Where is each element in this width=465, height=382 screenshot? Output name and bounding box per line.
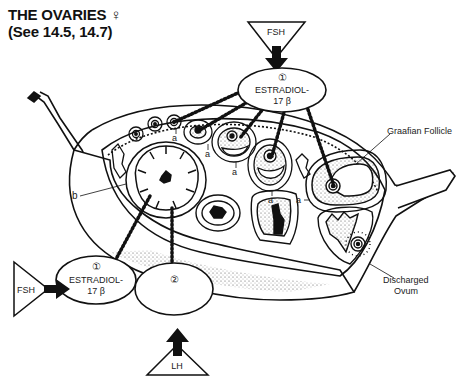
ovary-diagram: Graafian Follicle Discharged Ovum b a a …: [0, 0, 465, 382]
atretic-follicles: [196, 191, 298, 244]
label-a-2: a: [205, 149, 210, 159]
oval-top-number: ①: [278, 72, 287, 83]
label-a-4: a: [268, 195, 273, 205]
oval-top-line1: ESTRADIOL-: [255, 85, 309, 95]
corpus-luteum: [126, 142, 206, 218]
ruptured-follicle: [318, 207, 373, 264]
oval-left-line1: ESTRADIOL-: [69, 275, 123, 285]
fsh-top: FSH: [248, 22, 305, 72]
label-graafian-follicle: Graafian Follicle: [387, 126, 452, 136]
label-ovum: Ovum: [394, 286, 418, 296]
oval-2-number: ②: [170, 274, 179, 285]
oval-left-line2: 17 β: [87, 286, 105, 296]
oval-left-number: ①: [92, 261, 101, 272]
label-a-3: a: [232, 167, 237, 177]
lh-bottom: LH: [147, 328, 208, 375]
estradiol-oval-top: ① ESTRADIOL- 17 β: [238, 68, 326, 112]
graafian-follicle: [306, 150, 386, 212]
fsh-left-label: FSH: [17, 285, 35, 295]
oval-top-line2: 17 β: [273, 96, 291, 106]
label-discharged: Discharged: [383, 275, 429, 285]
label-a-1: a: [172, 133, 177, 143]
label-a-5: a: [296, 195, 301, 205]
oval-2: ②: [135, 263, 213, 315]
estradiol-oval-left: ① ESTRADIOL- 17 β: [56, 256, 136, 304]
label-b: b: [72, 190, 78, 201]
lh-label: LH: [171, 361, 183, 371]
fsh-top-label: FSH: [267, 27, 285, 37]
